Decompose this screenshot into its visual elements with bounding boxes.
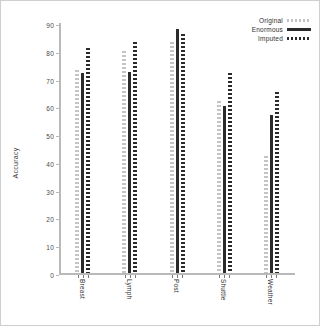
- bar-original-shuttle[interactable]: [217, 101, 221, 273]
- bar-original-weather[interactable]: [264, 156, 268, 273]
- chart-frame: 0102030405060708090 Accuracy BreastLymph…: [0, 0, 320, 326]
- bar-enormous-shuttle[interactable]: [223, 106, 226, 273]
- legend-entry-imputed[interactable]: Imputed: [258, 35, 311, 42]
- y-tick-label: 60: [46, 105, 54, 112]
- chart-legend: OriginalEnormousImputed: [252, 17, 311, 42]
- y-tick-label: 20: [46, 216, 54, 223]
- bar-imputed-lymph[interactable]: [133, 42, 137, 273]
- y-tick-label: 40: [46, 160, 54, 167]
- bar-original-lymph[interactable]: [122, 51, 126, 273]
- plot-area: 0102030405060708090: [59, 23, 295, 275]
- x-label-weather: Weather: [267, 279, 274, 305]
- legend-label: Enormous: [252, 26, 283, 33]
- bar-enormous-post[interactable]: [176, 29, 179, 273]
- legend-swatch-enormous-icon: [287, 28, 311, 31]
- bar-original-breast[interactable]: [75, 70, 79, 273]
- bar-imputed-weather[interactable]: [275, 92, 279, 273]
- y-tick-label: 0: [50, 272, 54, 279]
- x-label-breast: Breast: [79, 279, 86, 299]
- legend-entry-original[interactable]: Original: [259, 17, 311, 24]
- bar-group: [201, 23, 248, 273]
- bar-enormous-breast[interactable]: [81, 73, 84, 273]
- bar-imputed-post[interactable]: [181, 34, 185, 273]
- y-tick-label: 50: [46, 133, 54, 140]
- bar-group: [248, 23, 295, 273]
- y-tick-label: 70: [46, 77, 54, 84]
- x-axis-category-labels: BreastLymphPostShuttleWeather: [59, 277, 295, 325]
- bar-group: [153, 23, 200, 273]
- bar-enormous-weather[interactable]: [270, 115, 273, 273]
- x-label-lymph: Lymph: [126, 279, 133, 299]
- bar-imputed-shuttle[interactable]: [228, 73, 232, 273]
- legend-label: Imputed: [258, 35, 283, 42]
- y-tick-label: 90: [46, 22, 54, 29]
- bar-group: [59, 23, 106, 273]
- bar-group: [106, 23, 153, 273]
- y-tick-label: 10: [46, 244, 54, 251]
- bar-imputed-breast[interactable]: [86, 48, 90, 273]
- y-tick-label: 30: [46, 188, 54, 195]
- legend-swatch-imputed-icon: [287, 37, 311, 40]
- y-axis-title: Accuracy: [12, 147, 19, 178]
- bar-groups: [59, 23, 295, 273]
- x-label-post: Post: [173, 279, 180, 293]
- legend-label: Original: [259, 17, 283, 24]
- legend-entry-enormous[interactable]: Enormous: [252, 26, 311, 33]
- x-label-shuttle: Shuttle: [220, 279, 227, 301]
- bar-enormous-lymph[interactable]: [128, 72, 131, 273]
- bar-original-post[interactable]: [170, 42, 174, 273]
- legend-swatch-original-icon: [287, 19, 311, 22]
- y-tick-label: 80: [46, 49, 54, 56]
